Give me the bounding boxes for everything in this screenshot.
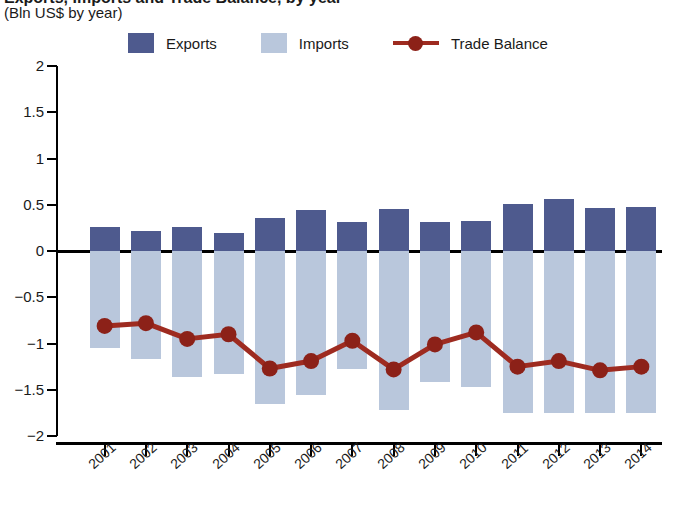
- legend-item-imports: Imports: [261, 32, 349, 54]
- legend-item-trade-balance: Trade Balance: [393, 32, 548, 54]
- plot-area: 21.510.50−0.5−1−1.5−2: [56, 66, 662, 436]
- chart-subtitle: (Bln US$ by year): [4, 4, 122, 21]
- trade-balance-point: [97, 318, 113, 334]
- y-tick-label: −1.5: [0, 381, 44, 398]
- y-tick-label: 2: [0, 57, 44, 74]
- trade-balance-point: [262, 360, 278, 376]
- trade-balance-point: [468, 324, 484, 340]
- trade-chart: Exports, Imports and Trade Balance, by y…: [0, 0, 674, 513]
- y-tick-label: 0: [0, 242, 44, 259]
- legend-label-trade-balance: Trade Balance: [451, 35, 548, 52]
- trade-balance-point: [179, 331, 195, 347]
- trade-balance-point: [221, 326, 237, 342]
- trade-balance-line-icon: [393, 33, 439, 53]
- trade-balance-point: [592, 362, 608, 378]
- exports-swatch-icon: [128, 33, 154, 53]
- y-tick-label: 1.5: [0, 103, 44, 120]
- trade-balance-point: [427, 336, 443, 352]
- y-tick-label: −1: [0, 335, 44, 352]
- imports-swatch-icon: [261, 33, 287, 53]
- y-tick-label: 1: [0, 150, 44, 167]
- y-tick-label: 0.5: [0, 196, 44, 213]
- trade-balance-line-series: [56, 66, 662, 436]
- y-tick-label: −0.5: [0, 288, 44, 305]
- trade-balance-point: [510, 359, 526, 375]
- trade-balance-point: [344, 333, 360, 349]
- trade-balance-point: [633, 359, 649, 375]
- y-tick-label: −2: [0, 427, 44, 444]
- chart-legend: Exports Imports Trade Balance: [128, 32, 668, 54]
- trade-balance-point: [386, 361, 402, 377]
- legend-item-exports: Exports: [128, 32, 217, 54]
- trade-balance-point: [303, 353, 319, 369]
- trade-balance-point: [138, 315, 154, 331]
- legend-label-imports: Imports: [299, 35, 349, 52]
- legend-label-exports: Exports: [166, 35, 217, 52]
- trade-balance-point: [551, 353, 567, 369]
